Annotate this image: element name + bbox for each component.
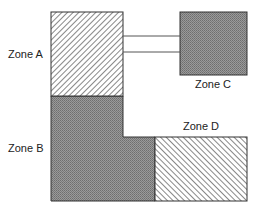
zone-b-shape <box>51 96 155 201</box>
zone-b-label: Zone B <box>8 142 43 154</box>
zone-d-shape <box>155 137 247 201</box>
zone-a-label: Zone A <box>8 48 44 60</box>
zone-d-label: Zone D <box>183 120 219 132</box>
zone-c-shape <box>180 12 247 75</box>
zone-c-label: Zone C <box>195 78 231 90</box>
zone-a-shape <box>51 12 123 96</box>
zone-diagram: Zone A Zone B Zone C Zone D <box>0 0 260 212</box>
